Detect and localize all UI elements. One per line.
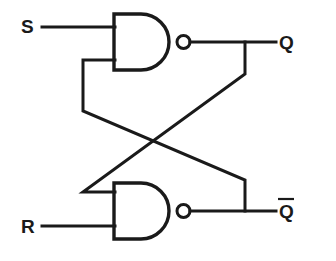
nand-gate-bottom-body bbox=[114, 183, 169, 239]
wire-crosscouple-qbar-to-nand-top bbox=[83, 60, 245, 211]
label-r-input: R bbox=[21, 216, 35, 237]
label-qbar-output: Q bbox=[279, 201, 294, 222]
inversion-bubble-bottom bbox=[177, 205, 190, 218]
label-s-input: S bbox=[21, 16, 34, 37]
inversion-bubble-top bbox=[177, 36, 190, 49]
sr-latch-schematic: S R Q Q bbox=[0, 0, 336, 261]
nand-gate-top-body bbox=[114, 14, 169, 70]
logic-diagram-canvas: S R Q Q bbox=[0, 0, 336, 261]
label-q-output: Q bbox=[279, 32, 294, 53]
